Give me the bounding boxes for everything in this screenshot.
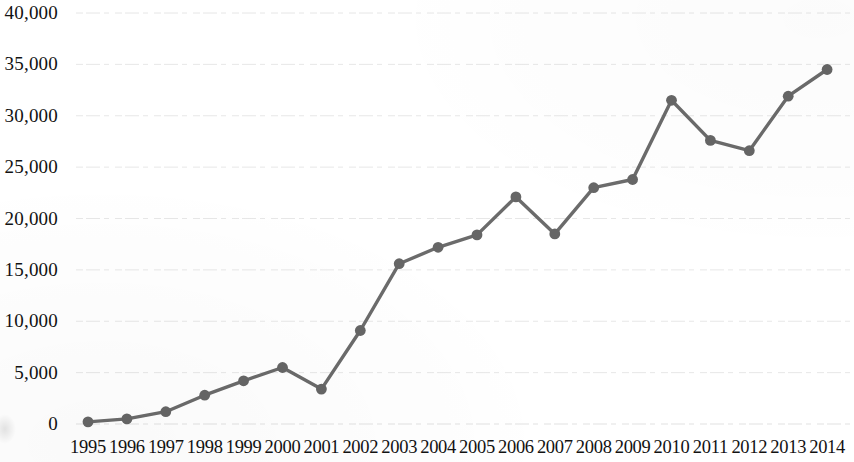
y-axis-tick-label: 0 — [0, 414, 68, 433]
y-axis-tick-label: 15,000 — [0, 260, 68, 279]
y-axis-tick-label: 30,000 — [0, 106, 68, 125]
y-axis-tick-label: 20,000 — [0, 209, 68, 228]
data-point-marker — [783, 91, 794, 102]
x-axis-tick-label: 1999 — [226, 436, 262, 458]
data-point-marker — [433, 242, 444, 253]
x-axis-tick-label: 2002 — [342, 436, 378, 458]
data-point-marker — [122, 414, 133, 425]
x-axis-tick-label: 2004 — [420, 436, 456, 458]
x-axis-tick-label: 2012 — [731, 436, 767, 458]
data-point-marker — [588, 182, 599, 193]
plot-area — [0, 0, 854, 436]
y-axis-tick-label: 35,000 — [0, 54, 68, 73]
series-line — [88, 70, 827, 422]
data-point-marker — [627, 174, 638, 185]
x-axis-tick-label: 1996 — [109, 436, 145, 458]
data-point-marker — [549, 229, 560, 240]
y-axis-tick-label: 25,000 — [0, 157, 68, 176]
x-axis-tick-label: 2007 — [537, 436, 573, 458]
data-point-marker — [705, 135, 716, 146]
x-axis-tick-label: 2001 — [303, 436, 339, 458]
x-axis-tick-label: 2014 — [809, 436, 845, 458]
gridlines-group — [76, 13, 852, 424]
data-point-marker — [744, 145, 755, 156]
x-axis-tick-label: 1997 — [148, 436, 184, 458]
chart-svg — [0, 0, 854, 436]
y-axis-tick-label: 40,000 — [0, 3, 68, 22]
x-axis-tick-label: 2006 — [498, 436, 534, 458]
data-point-marker — [666, 95, 677, 106]
x-axis-tick-label: 2008 — [576, 436, 612, 458]
data-point-marker — [472, 230, 483, 241]
data-point-marker — [160, 406, 171, 417]
data-point-marker — [83, 417, 94, 428]
x-axis-tick-label: 2005 — [459, 436, 495, 458]
line-chart: 05,00010,00015,00020,00025,00030,00035,0… — [0, 0, 854, 462]
data-point-marker — [316, 384, 327, 395]
x-axis-tick-label: 2010 — [654, 436, 690, 458]
x-axis-tick-label: 1995 — [70, 436, 106, 458]
x-axis-tick-label: 2009 — [615, 436, 651, 458]
x-axis-tick-label: 2000 — [265, 436, 301, 458]
data-point-marker — [238, 375, 249, 386]
data-point-marker — [394, 258, 405, 269]
x-axis-tick-label: 2011 — [693, 436, 728, 458]
x-axis-tick-label: 1998 — [187, 436, 223, 458]
data-point-marker — [511, 192, 522, 203]
data-point-marker — [277, 362, 288, 373]
data-line-group — [88, 70, 827, 422]
data-point-marker — [355, 325, 366, 336]
x-axis-tick-label: 2013 — [770, 436, 806, 458]
data-point-marker — [822, 64, 833, 75]
x-axis-tick-label: 2003 — [381, 436, 417, 458]
x-axis: 1995199619971998199920002001200220032004… — [0, 436, 854, 462]
y-axis: 05,00010,00015,00020,00025,00030,00035,0… — [0, 0, 68, 462]
y-axis-tick-label: 5,000 — [0, 363, 68, 382]
y-axis-tick-label: 10,000 — [0, 311, 68, 330]
data-point-marker — [199, 390, 210, 401]
